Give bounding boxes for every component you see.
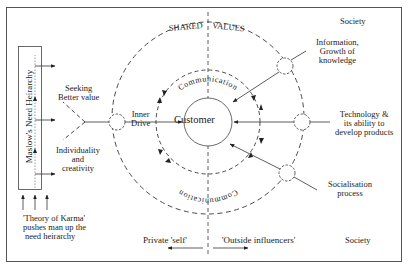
outside-influencers-label: 'Outside influencers': [222, 236, 295, 245]
inner-drive-label: Inner Drive: [131, 110, 150, 128]
karma-line3: need heirarchy: [23, 232, 86, 241]
information-line-out: [291, 51, 306, 60]
technology-node: [294, 114, 310, 130]
information-arrow: [233, 72, 279, 102]
society-top-label: Society: [340, 17, 366, 26]
society-bottom-label: Society: [345, 236, 371, 245]
seeking-line2: Better value: [58, 93, 99, 102]
technology-label: Technology & its ability to develop prod…: [335, 110, 393, 137]
maslow-label: Maslow's Need Heirarchy: [25, 48, 34, 186]
socialisation-line2: process: [328, 189, 372, 198]
individuality-label: Individuality and creativity: [56, 146, 100, 173]
socialisation-node: [279, 165, 295, 181]
information-node: [277, 58, 293, 74]
individuality-line3: creativity: [56, 164, 100, 173]
seeking-better-value-label: Seeking Better value: [58, 84, 99, 102]
shared-values-left-label: SHARED: [168, 20, 203, 33]
socialisation-line-out: [294, 177, 317, 190]
private-self-label: Private 'self': [143, 236, 187, 245]
information-line3: knowledge: [316, 56, 359, 65]
technology-line3: develop products: [335, 128, 393, 137]
information-label: Information, Growth of knowledge: [316, 38, 359, 65]
individuality-dashed: [63, 122, 85, 140]
shared-values-right-label: VALUES: [212, 20, 246, 33]
inner-drive-line2: Drive: [131, 119, 150, 128]
seeking-dashed: [63, 102, 85, 122]
karma-label: 'Theory of Karma' pushes man up the need…: [23, 214, 86, 241]
socialisation-label: Socialisation process: [328, 180, 372, 198]
individual-node: [109, 114, 125, 130]
customer-label: Customer: [174, 114, 215, 126]
